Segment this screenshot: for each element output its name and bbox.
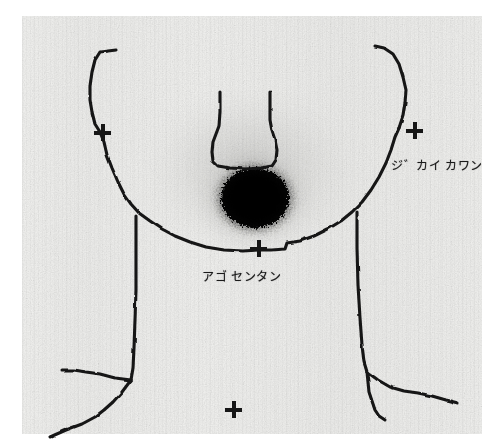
label-right-jaw: ジ゛カイ カワン — [391, 160, 483, 172]
scintigram-viewport: ジ゛カイ カワン アゴ センタン — [0, 0, 499, 448]
label-chin-tip: アゴ センタン — [202, 271, 281, 283]
scan-overlay — [0, 0, 499, 448]
